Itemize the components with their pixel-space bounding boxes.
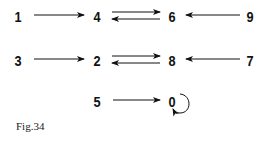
node-4: 4 [93, 8, 101, 25]
node-3: 3 [14, 52, 22, 69]
figure-caption: Fig.34 [16, 120, 44, 132]
node-7: 7 [246, 52, 254, 69]
node-6: 6 [168, 8, 176, 25]
node-8: 8 [168, 52, 176, 69]
node-1: 1 [14, 8, 22, 25]
node-2: 2 [93, 52, 101, 69]
node-5: 5 [93, 93, 101, 110]
node-9: 9 [246, 8, 254, 25]
node-0: 0 [168, 93, 176, 110]
